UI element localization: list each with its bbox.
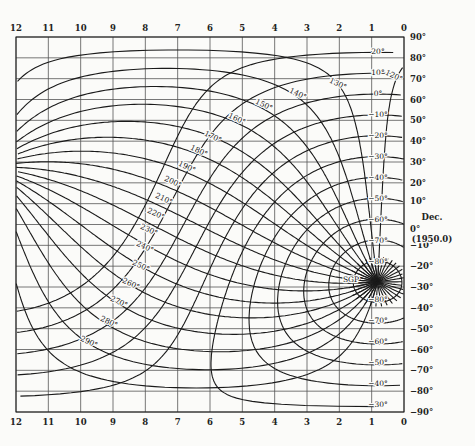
- latitude-label: 20°: [371, 47, 385, 56]
- longitude-label: 220°: [146, 206, 166, 222]
- epoch-label: (1950.0): [412, 234, 453, 244]
- ra-tick-bottom: 2: [336, 417, 342, 427]
- dec-tick: 40°: [410, 136, 426, 146]
- ra-tick-top: 8: [142, 23, 148, 33]
- longitude-curve: [17, 176, 378, 291]
- longitude-label: 130°: [328, 76, 348, 92]
- longitude-label: 200°: [163, 174, 183, 190]
- latitude-label: −70°: [368, 236, 388, 245]
- ra-tick-top: 12: [10, 23, 22, 33]
- dec-tick: −20°: [410, 261, 433, 271]
- ra-tick-bottom: 10: [75, 417, 87, 427]
- latitude-label: −30°: [368, 400, 388, 409]
- ra-tick-bottom: 5: [239, 417, 245, 427]
- longitude-label: 180°: [189, 143, 209, 159]
- ra-tick-top: 3: [304, 23, 310, 33]
- ra-tick-top: 7: [175, 23, 181, 33]
- longitude-label: 290°: [79, 334, 99, 350]
- longitude-curve: [16, 162, 378, 282]
- latitude-label: −40°: [368, 379, 388, 388]
- latitude-label: −40°: [368, 173, 388, 182]
- ra-tick-bottom: 7: [175, 417, 181, 427]
- dec-tick: 10°: [410, 196, 426, 206]
- dec-tick: 90°: [410, 32, 426, 42]
- longitude-label: 260°: [121, 276, 141, 292]
- ra-tick-bottom: 11: [42, 417, 54, 427]
- ra-tick-bottom: 9: [110, 417, 116, 427]
- ra-tick-top: 1: [369, 23, 375, 33]
- dec-tick: 70°: [410, 74, 426, 84]
- dec-tick: 0°: [410, 224, 420, 234]
- ra-tick-bottom: 12: [10, 417, 22, 427]
- longitude-label: 160°: [227, 111, 247, 127]
- grid-lines: [16, 37, 404, 412]
- longitude-curve: [17, 87, 378, 282]
- sgp-label: SGP: [343, 275, 359, 284]
- dec-tick: −70°: [410, 365, 433, 375]
- longitude-label: 170°: [203, 129, 223, 145]
- dec-axis-label: Dec.: [422, 212, 443, 222]
- ra-tick-bottom: 3: [304, 417, 310, 427]
- ra-tick-top: 4: [272, 23, 278, 33]
- dec-tick: 50°: [410, 115, 426, 125]
- ra-tick-bottom: 0: [401, 417, 407, 427]
- dec-tick: −30°: [410, 282, 433, 292]
- latitude-label: −70°: [368, 316, 388, 325]
- longitude-label: 280°: [99, 314, 119, 330]
- latitude-label: −20°: [368, 131, 388, 140]
- longitude-curve: [18, 50, 378, 282]
- dec-tick: −60°: [410, 345, 433, 355]
- ra-tick-top: 6: [207, 23, 213, 33]
- ra-tick-bottom: 1: [369, 417, 375, 427]
- longitude-curve: [18, 137, 378, 281]
- ra-tick-bottom: 8: [142, 417, 148, 427]
- ra-tick-top: 9: [110, 23, 116, 33]
- latitude-label: −10°: [368, 110, 388, 119]
- latitude-label: −80°: [368, 257, 388, 266]
- latitude-label: −30°: [368, 152, 388, 161]
- dec-tick: −40°: [410, 303, 433, 313]
- latitude-label: −50°: [368, 194, 388, 203]
- ra-tick-top: 11: [42, 23, 54, 33]
- longitude-curve: [18, 151, 378, 281]
- dec-tick: 20°: [410, 178, 426, 188]
- ra-tick-top: 10: [75, 23, 87, 33]
- coordinate-chart: 20°10°0°−10°−20°−30°−40°−50°−60°−70°−80°…: [0, 0, 475, 446]
- longitude-curve: [16, 232, 378, 370]
- longitude-label: 250°: [131, 258, 151, 274]
- latitude-label: −60°: [368, 215, 388, 224]
- ra-tick-bottom: 4: [272, 417, 278, 427]
- latitude-label: 0°: [374, 89, 383, 98]
- ra-tick-top: 5: [239, 23, 245, 33]
- latitude-label: −50°: [368, 358, 388, 367]
- longitude-label: 270°: [109, 294, 129, 310]
- dec-tick: 30°: [410, 157, 426, 167]
- dec-tick: −90°: [410, 407, 433, 417]
- latitude-label: 10°: [371, 68, 385, 77]
- ra-tick-bottom: 6: [207, 417, 213, 427]
- latitude-label: −60°: [368, 337, 388, 346]
- dec-tick: 60°: [410, 95, 426, 105]
- dec-tick: −50°: [410, 324, 433, 334]
- ra-tick-top: 0: [401, 23, 407, 33]
- dec-tick: −80°: [410, 386, 433, 396]
- longitude-curve: [17, 68, 378, 281]
- dec-tick: 80°: [410, 53, 426, 63]
- ra-tick-top: 2: [336, 23, 342, 33]
- latitude-label: −80°: [368, 295, 388, 304]
